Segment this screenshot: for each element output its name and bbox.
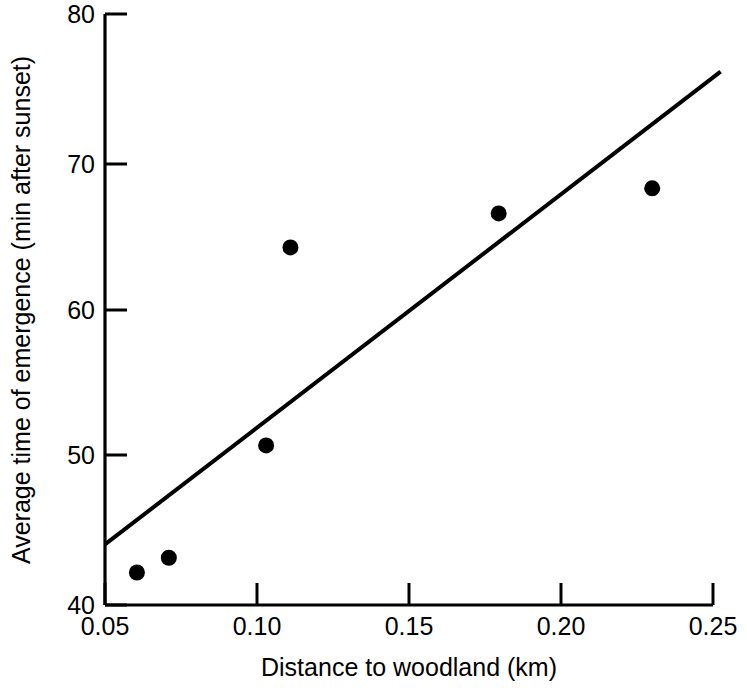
x-tick-label-0-10: 0.10	[233, 612, 282, 640]
y-tick-label-50: 50	[67, 441, 95, 469]
x-tick-label-0-05: 0.05	[81, 612, 130, 640]
data-point	[129, 564, 145, 580]
data-point	[161, 550, 177, 566]
y-tick-label-80: 80	[67, 0, 95, 28]
data-point	[491, 205, 507, 221]
x-axis-title: Distance to woodland (km)	[261, 653, 557, 681]
x-axis-ticks	[105, 583, 713, 605]
x-tick-label-0-25: 0.25	[689, 612, 738, 640]
data-point-group	[129, 180, 660, 580]
data-point	[258, 437, 274, 453]
data-point	[644, 180, 660, 196]
data-point	[282, 239, 298, 255]
x-tick-label-0-20: 0.20	[537, 612, 586, 640]
y-axis-ticks	[105, 14, 127, 605]
scatter-plot-figure: 80 70 60 50 40 0.05 0.10 0.15 0.20 0.25 …	[0, 0, 747, 692]
chart-canvas: 80 70 60 50 40 0.05 0.10 0.15 0.20 0.25 …	[0, 0, 747, 692]
trend-line	[105, 72, 721, 545]
y-tick-label-70: 70	[67, 150, 95, 178]
y-axis-title: Average time of emergence (min after sun…	[7, 56, 35, 564]
x-tick-label-0-15: 0.15	[385, 612, 434, 640]
y-tick-label-60: 60	[67, 296, 95, 324]
